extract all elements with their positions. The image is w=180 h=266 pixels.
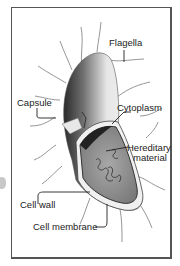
label-flagella: Flagella — [109, 38, 142, 48]
label-cell-membrane: Cell membrane — [33, 222, 97, 232]
label-cytoplasm: Cytoplasm — [117, 103, 162, 113]
label-cell-wall: Cell wall — [20, 200, 55, 210]
label-hereditary-line2: material — [133, 153, 167, 163]
label-capsule: Capsule — [17, 98, 52, 108]
